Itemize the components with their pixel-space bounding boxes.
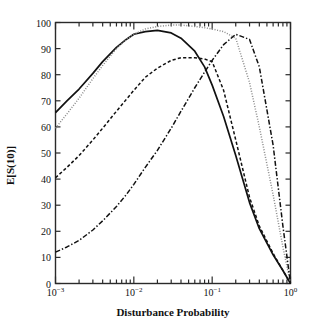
x-tick-label: 10−1 xyxy=(203,287,220,298)
series-dashed-curve xyxy=(56,58,291,284)
x-tick-label: 10−2 xyxy=(125,287,142,298)
x-axis-label: Disturbance Probability xyxy=(55,306,291,318)
plot-frame xyxy=(56,23,291,284)
series-dash-dot-curve xyxy=(56,34,291,283)
y-tick-label: 100 xyxy=(36,17,51,28)
y-tick-label: 90 xyxy=(41,43,51,54)
y-tick-label: 50 xyxy=(41,148,51,159)
y-tick-label: 10 xyxy=(41,252,51,263)
y-tick-label: 30 xyxy=(41,200,51,211)
y-tick-label: 80 xyxy=(41,69,51,80)
series-dotted-curve xyxy=(56,25,291,283)
y-tick-label: 60 xyxy=(41,121,51,132)
chart-figure: E[S(10)] 0102030405060708090100 10−310−2… xyxy=(0,0,316,329)
y-tick-label: 70 xyxy=(41,95,51,106)
y-axis-tick-labels: 0102030405060708090100 xyxy=(22,0,51,329)
series-solid-curve xyxy=(56,30,291,283)
y-tick-label: 40 xyxy=(41,174,51,185)
y-tick-label: 20 xyxy=(41,226,51,237)
x-tick-label: 10−3 xyxy=(47,287,64,298)
y-axis-label: E[S(10)] xyxy=(2,110,18,220)
x-tick-label: 100 xyxy=(284,287,298,298)
